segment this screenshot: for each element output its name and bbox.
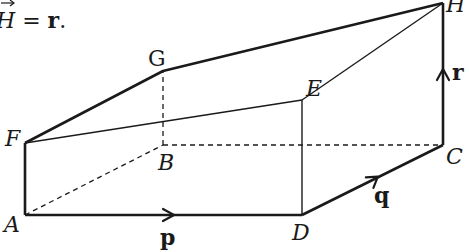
caption: H = r. — [0, 0, 66, 33]
caption-text: H = r. — [0, 7, 66, 33]
label-E: E — [305, 76, 322, 101]
label-D: D — [291, 220, 310, 245]
edge-AB — [25, 145, 163, 215]
vector-label-r: r — [452, 59, 464, 85]
label-C: C — [446, 144, 463, 169]
label-G: G — [148, 46, 166, 71]
vector-q-line — [302, 145, 443, 215]
label-F: F — [4, 126, 21, 151]
prism-diagram: H = r. A D C H F E G B p q r — [0, 0, 469, 252]
vector-label-p: p — [160, 224, 175, 250]
vector-label-q: q — [374, 182, 389, 208]
label-B: B — [157, 150, 174, 175]
edge-EH — [302, 3, 443, 100]
label-H: H — [445, 0, 466, 17]
edge-FGH — [25, 3, 443, 143]
label-A: A — [2, 212, 20, 237]
diagram-svg: H = r. A D C H F E G B p q r — [0, 0, 469, 252]
